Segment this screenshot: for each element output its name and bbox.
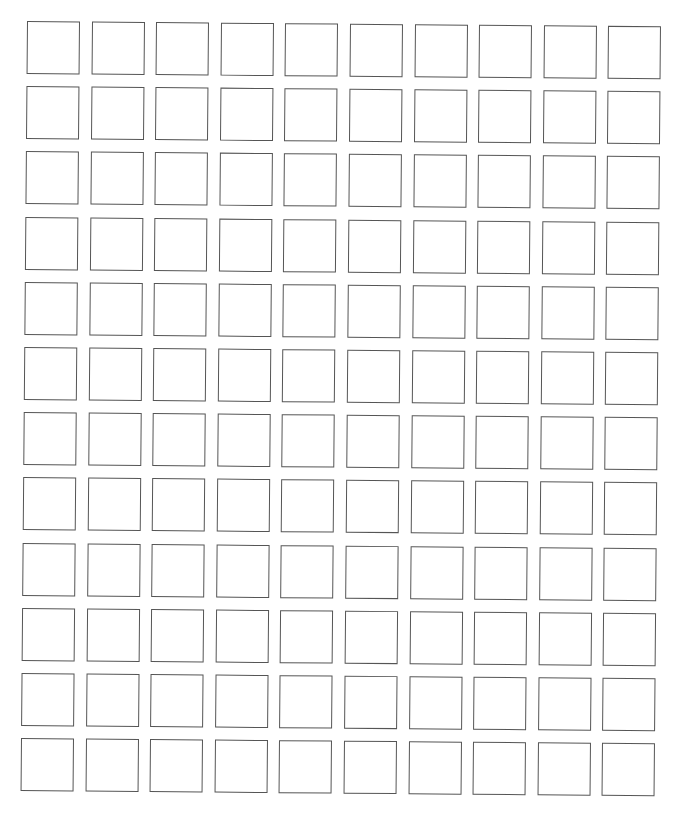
grid-cell (539, 547, 592, 600)
grid-cell (216, 544, 269, 597)
grid-cell (151, 609, 204, 662)
grid-cell (605, 352, 658, 405)
grid-cell (281, 545, 334, 598)
grid-cell (26, 86, 79, 139)
grid-cell (409, 676, 462, 729)
grid-cell (152, 478, 205, 531)
grid-cell (414, 24, 467, 77)
grid-cell (605, 417, 658, 470)
grid-cell (606, 221, 659, 274)
grid-cell (607, 156, 660, 209)
grid-cell (88, 413, 141, 466)
grid-cell (348, 154, 401, 207)
grid-cell (345, 610, 398, 663)
grid-cell (476, 351, 529, 404)
grid-cell (219, 218, 272, 271)
grid-cell (283, 219, 336, 272)
grid-cell (411, 350, 464, 403)
grid-cell (346, 480, 399, 533)
grid-cell (86, 674, 139, 727)
grid-cell (607, 91, 660, 144)
grid-cell (281, 480, 334, 533)
grid-cell (608, 26, 661, 79)
grid-cell (282, 349, 335, 402)
grid-cell (21, 738, 74, 791)
grid-cell (217, 479, 270, 532)
grid-cell (283, 284, 336, 337)
grid-cell (279, 740, 332, 793)
grid-cell (218, 349, 271, 402)
grid-cell (285, 23, 338, 76)
grid-cell (24, 347, 77, 400)
grid-cell (21, 673, 74, 726)
grid-cell (215, 609, 268, 662)
grid-cell (155, 87, 208, 140)
grid-cell (280, 610, 333, 663)
grid-cell (91, 22, 144, 75)
grid-cell (603, 613, 656, 666)
grid-cell (410, 481, 463, 534)
grid-cell (214, 740, 267, 793)
grid-cell (22, 608, 75, 661)
grid-cell (154, 283, 207, 336)
grid-cell (606, 287, 659, 340)
grid-cell (27, 21, 80, 74)
grid-cell (602, 743, 655, 796)
grid-cell (156, 22, 209, 75)
grid-cell (89, 282, 142, 335)
grid-cell (478, 90, 531, 143)
grid-cell (347, 284, 400, 337)
grid-cell (152, 413, 205, 466)
grid-cell (538, 677, 591, 730)
grid-cell (478, 155, 531, 208)
grid-cell (604, 482, 657, 535)
grid-cell (473, 742, 526, 795)
grid-cell (350, 24, 403, 77)
grid-cell (220, 23, 273, 76)
grid-cell (408, 741, 461, 794)
grid-cell (154, 218, 207, 271)
grid-cell (409, 611, 462, 664)
grid-cell (85, 739, 138, 792)
grid-cell (411, 415, 464, 468)
grid-cell (150, 674, 203, 727)
grid-cell (540, 417, 593, 470)
grid-cell (87, 478, 140, 531)
grid-cell (23, 412, 76, 465)
grid-cell (153, 348, 206, 401)
grid-cell (543, 25, 596, 78)
grid-cell (537, 742, 590, 795)
grid-cell (602, 678, 655, 731)
grid-cell (474, 546, 527, 599)
grid-cell (86, 608, 139, 661)
grid-cell (542, 156, 595, 209)
grid-cell (25, 151, 78, 204)
grid-cell (220, 88, 273, 141)
grid-cell (540, 482, 593, 535)
grid-cell (604, 547, 657, 600)
grid-cell (87, 543, 140, 596)
grid-cell (25, 217, 78, 270)
grid-cell (410, 546, 463, 599)
grid-cell (412, 220, 465, 273)
grid-cell (345, 545, 398, 598)
grid-cell (344, 741, 397, 794)
grid-cell (219, 153, 272, 206)
grid-cell (218, 283, 271, 336)
grid-cell (473, 677, 526, 730)
grid-cell (217, 414, 270, 467)
grid-cell (279, 675, 332, 728)
grid-cell (479, 25, 532, 78)
grid-cell (541, 351, 594, 404)
grid-cell (348, 219, 401, 272)
grid-cell (282, 414, 335, 467)
grid-cell (90, 217, 143, 270)
grid-cell (150, 739, 203, 792)
grid-cell (414, 89, 467, 142)
grid-cell (346, 415, 399, 468)
grid-cell (151, 544, 204, 597)
grid-cell (475, 416, 528, 469)
grid-cell (284, 154, 337, 207)
grid-cell (155, 152, 208, 205)
grid-cell (542, 221, 595, 274)
